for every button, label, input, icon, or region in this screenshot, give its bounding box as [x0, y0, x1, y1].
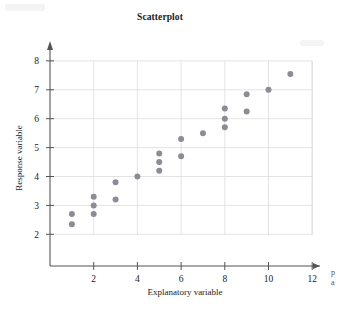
- data-point: [287, 71, 293, 77]
- y-tick-label: 7: [34, 85, 39, 95]
- x-tick-label: 4: [135, 274, 140, 284]
- x-tick-label: 10: [264, 274, 274, 284]
- gridlines: [50, 61, 312, 235]
- margin-note: p a: [331, 268, 343, 288]
- data-point: [69, 211, 75, 217]
- y-tick-label: 6: [34, 114, 39, 124]
- scatter-plot-svg: 24681012 2345678 Explanatory variable Re…: [0, 0, 345, 312]
- data-point: [156, 159, 162, 165]
- y-tick-label: 3: [34, 201, 39, 211]
- data-point: [222, 106, 228, 112]
- data-point: [178, 153, 184, 159]
- data-point: [113, 197, 119, 203]
- y-axis-label: Response variable: [14, 125, 24, 191]
- data-point: [244, 108, 250, 114]
- y-tick-label: 8: [34, 56, 39, 66]
- data-point: [178, 136, 184, 142]
- margin-note-line-2: a: [331, 278, 343, 288]
- x-tick-label: 2: [91, 274, 96, 284]
- data-point: [222, 116, 228, 122]
- x-tick-label: 8: [222, 274, 227, 284]
- data-point: [113, 179, 119, 185]
- data-point: [156, 150, 162, 156]
- data-point: [69, 221, 75, 227]
- scatterplot-figure: Scatterplot 24681012 2345678 Explanatory…: [0, 0, 345, 312]
- data-point: [91, 211, 97, 217]
- x-axis-ticks: 24681012: [91, 262, 317, 284]
- data-point: [222, 124, 228, 130]
- data-point: [91, 194, 97, 200]
- data-point: [156, 168, 162, 174]
- data-point: [200, 130, 206, 136]
- y-axis-arrow-icon: [47, 41, 53, 50]
- data-point: [244, 91, 250, 97]
- margin-note-line-1: p: [331, 268, 343, 278]
- x-tick-label: 6: [179, 274, 184, 284]
- x-tick-label: 12: [307, 274, 317, 284]
- data-point: [134, 174, 140, 180]
- x-axis-arrow-icon: [313, 263, 320, 269]
- y-axis-ticks: 2345678: [34, 56, 54, 239]
- data-point: [266, 87, 272, 93]
- y-tick-label: 5: [34, 143, 39, 153]
- data-point: [91, 202, 97, 208]
- x-axis-label: Explanatory variable: [147, 287, 222, 297]
- y-tick-label: 2: [34, 230, 39, 240]
- y-tick-label: 4: [34, 172, 39, 182]
